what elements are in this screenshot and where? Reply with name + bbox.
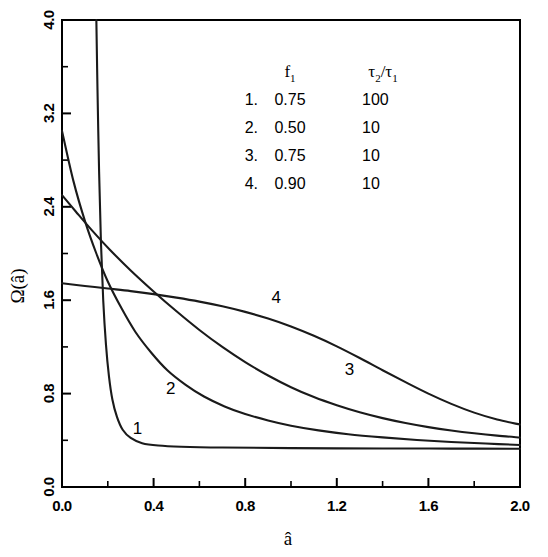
- legend-row-index: 2.: [245, 119, 258, 136]
- legend-row-ratio: 100: [362, 91, 389, 108]
- y-tick-label: 0.8: [40, 384, 57, 404]
- x-axis-title: â: [284, 528, 293, 549]
- legend-row-f1: 0.90: [274, 175, 305, 192]
- y-tick-label-group: 0.0: [40, 477, 57, 497]
- x-tick-label: 0.4: [144, 497, 165, 514]
- x-tick-label: 0.8: [236, 497, 256, 514]
- y-tick-label-group: 2.4: [40, 196, 57, 217]
- x-tick-label: 1.6: [419, 497, 439, 514]
- y-title-close: ): [7, 268, 29, 274]
- y-tick-label-group: 0.8: [40, 384, 57, 404]
- line-chart: 0.00.40.81.21.62.0 0.00.81.62.43.24.0 12…: [0, 0, 548, 557]
- figure-root: 0.00.40.81.21.62.0 0.00.81.62.43.24.0 12…: [0, 0, 548, 557]
- y-tick-label-group: 4.0: [40, 10, 57, 30]
- legend-row-f1: 0.75: [274, 91, 305, 108]
- x-tick-label: 1.2: [327, 497, 347, 514]
- curve-label-1: 1: [133, 419, 142, 438]
- legend-row-ratio: 10: [362, 175, 380, 192]
- y-tick-label: 2.4: [40, 196, 57, 217]
- legend-row-f1: 0.50: [274, 119, 305, 136]
- legend-row-ratio: 10: [362, 147, 380, 164]
- x-tick-label: 2.0: [510, 497, 530, 514]
- chart-background: [0, 0, 548, 557]
- y-axis-title: Ω(â): [7, 268, 29, 303]
- curve-label-4: 4: [271, 288, 280, 307]
- y-tick-label: 0.0: [40, 477, 57, 497]
- legend-row-ratio: 10: [362, 119, 380, 136]
- y-tick-label: 3.2: [40, 104, 57, 124]
- svg-text:Ω(â): Ω(â): [7, 268, 29, 303]
- legend-row-f1: 0.75: [274, 147, 305, 164]
- y-tick-label-group: 1.6: [40, 290, 57, 310]
- curve-label-3: 3: [345, 360, 354, 379]
- legend-row-index: 3.: [245, 147, 258, 164]
- y-tick-label: 1.6: [40, 290, 57, 310]
- legend-row-index: 1.: [245, 91, 258, 108]
- y-tick-label-group: 3.2: [40, 104, 57, 124]
- x-tick-label: 0.0: [52, 497, 72, 514]
- y-tick-label: 4.0: [40, 10, 57, 30]
- y-title-omega: Ω: [7, 289, 28, 303]
- legend-row-index: 4.: [245, 175, 258, 192]
- curve-label-2: 2: [166, 379, 175, 398]
